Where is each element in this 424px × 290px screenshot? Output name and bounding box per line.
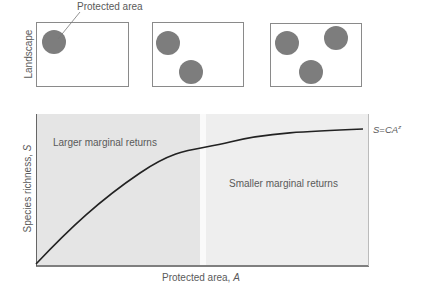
plot-lines bbox=[0, 0, 424, 290]
species-area-curve bbox=[36, 129, 363, 264]
callout-leader-line bbox=[58, 12, 80, 39]
